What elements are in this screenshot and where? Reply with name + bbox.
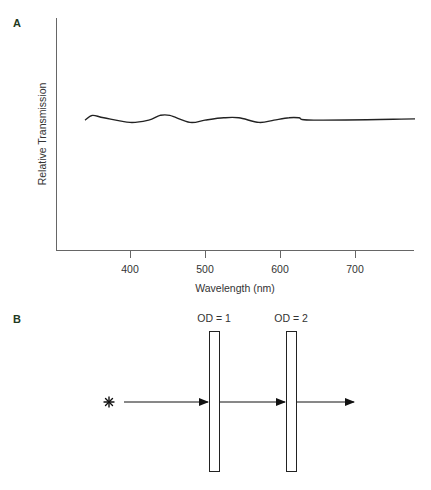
light-source-icon xyxy=(104,397,114,407)
x-tick-label-600: 600 xyxy=(271,263,289,275)
filter-1 xyxy=(210,332,220,472)
filter-2-label: OD = 2 xyxy=(274,312,308,324)
filter-1-label: OD = 1 xyxy=(197,312,231,324)
figure: A 400 500 600 700 Wavelength (nm) Relati… xyxy=(0,0,431,490)
x-tick-label-500: 500 xyxy=(196,263,214,275)
panel-b-label: B xyxy=(13,313,21,325)
od-filter-diagram: OD = 1 OD = 2 xyxy=(104,312,354,472)
y-axis-title: Relative Transmission xyxy=(36,82,48,185)
transmission-curve xyxy=(85,115,415,123)
x-ticks xyxy=(131,251,356,258)
panel-a-label: A xyxy=(13,17,21,29)
x-tick-label-700: 700 xyxy=(346,263,364,275)
x-tick-label-400: 400 xyxy=(121,263,139,275)
filter-2 xyxy=(287,332,297,472)
transmission-chart: 400 500 600 700 Wavelength (nm) Relative… xyxy=(36,18,415,294)
x-axis-title: Wavelength (nm) xyxy=(195,282,275,294)
